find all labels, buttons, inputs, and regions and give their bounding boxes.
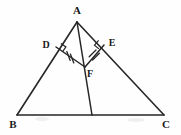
scan-smudge (35, 117, 49, 121)
vertex-label-d: D (42, 39, 49, 50)
geometry-canvas: A B C D E F (0, 0, 181, 135)
scan-smudge (127, 118, 145, 122)
vertex-label-e: E (109, 37, 116, 48)
segment-ef (85, 45, 104, 67)
geometry-figure: A B C D E F (0, 0, 181, 135)
vertex-label-b: B (9, 118, 17, 130)
segment-ab (17, 22, 77, 115)
vertex-label-a: A (73, 4, 81, 16)
segment-df (56, 47, 85, 67)
vertex-label-c: C (162, 118, 170, 130)
vertex-label-f: F (87, 68, 93, 79)
